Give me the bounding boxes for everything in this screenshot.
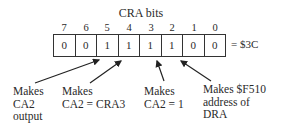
arrow-icon xyxy=(90,61,121,83)
arrow-icon xyxy=(157,61,164,81)
arrow-icon xyxy=(181,61,211,81)
arrow-icon xyxy=(35,60,99,83)
annotation-bit2: Makes $F510 address of DRA xyxy=(203,83,266,121)
annotation-bit4: Makes CA2 = CRA3 xyxy=(62,85,125,110)
annotation-bit3: Makes CA2 = 1 xyxy=(144,85,184,110)
annotation-bit5: Makes CA2 output xyxy=(13,85,44,123)
